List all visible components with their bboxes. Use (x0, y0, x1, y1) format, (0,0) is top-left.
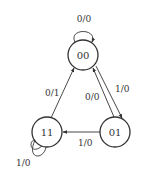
transition-11-11: 1/0 (16, 140, 46, 168)
state-00-label: 00 (77, 50, 90, 61)
state-01: 01 (100, 117, 130, 147)
transition-label: 1/0 (16, 158, 31, 168)
transition-label: 0/0 (77, 14, 92, 24)
state-11-label: 11 (41, 127, 54, 138)
transition-00-00: 0/0 (74, 14, 93, 42)
state-01-label: 01 (109, 127, 122, 138)
state-11: 11 (32, 117, 62, 147)
transition-01-11: 1/0 (63, 132, 100, 148)
transition-11-00: 0/1 (45, 68, 74, 118)
state-diagram: 00 01 11 0/0 1/0 0/0 0/1 1/0 1/0 (0, 0, 144, 176)
transition-label: 1/0 (78, 138, 93, 148)
transition-label: 1/0 (115, 84, 130, 94)
transition-label: 0/1 (45, 88, 59, 98)
transition-00-01: 1/0 (96, 66, 130, 118)
state-00: 00 (68, 40, 98, 70)
transition-label: 0/0 (85, 92, 100, 102)
